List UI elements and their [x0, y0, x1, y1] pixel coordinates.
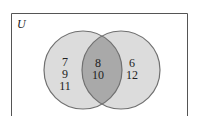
universe-label: U	[17, 17, 27, 31]
left-element: 11	[59, 79, 71, 93]
venn-diagram: U 7 9 11 8 10 6 12	[0, 0, 204, 116]
right-element: 12	[126, 68, 138, 82]
intersection-element: 10	[92, 68, 104, 82]
